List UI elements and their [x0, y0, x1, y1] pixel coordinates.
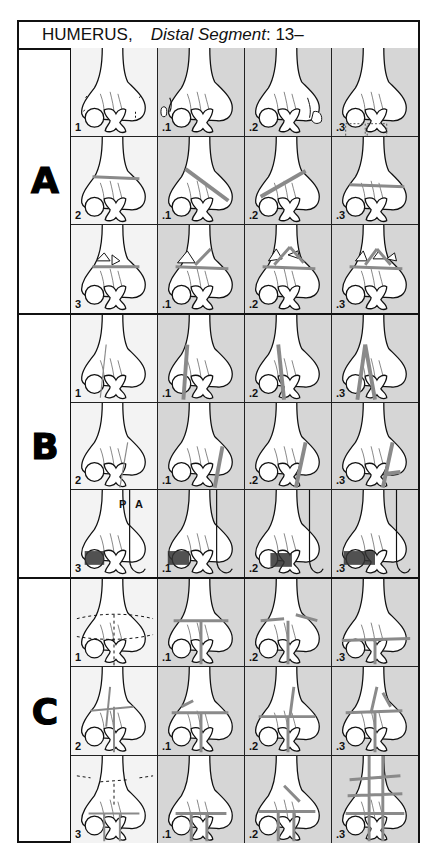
subgroup-label: .3 — [336, 474, 345, 486]
fracture-cell-c2-3: .3 — [331, 667, 418, 754]
subgroup-label: 1 — [75, 387, 81, 399]
fracture-cell-c1-2: .2 — [244, 579, 331, 666]
subgroup-label: .3 — [336, 209, 345, 221]
subgroup-row: 3.1.2.3 — [71, 224, 418, 313]
fracture-cell-c1: 1 — [71, 579, 157, 666]
subgroup-label: .2 — [249, 474, 258, 486]
fracture-cell-a1: 1 — [71, 48, 157, 136]
fracture-cell-c1-1: .1 — [157, 579, 244, 666]
subgroup-label: .1 — [162, 209, 171, 221]
segment-code: : 13– — [266, 25, 304, 45]
group-c: C1.1.2.32.1.2.33.1.2.3 — [19, 577, 418, 843]
group-rows: 1.1.2.32.1.2.33.1.2.3 — [71, 579, 418, 843]
subgroup-label: .3 — [336, 387, 345, 399]
subgroup-label: 1 — [75, 651, 81, 663]
fracture-cell-b3-1: .1 — [157, 490, 244, 577]
subgroup-label: .2 — [249, 651, 258, 663]
subgroup-label: .2 — [249, 562, 258, 574]
humerus-fracture-illustration — [71, 48, 157, 136]
anterior-view-label: A — [135, 498, 143, 510]
group-rows: 1.1.2.32.1.2.33.1.2.3 — [71, 48, 418, 313]
subgroup-label: .3 — [336, 298, 345, 310]
subgroup-label: 3 — [75, 828, 81, 840]
subgroup-label: 3 — [75, 298, 81, 310]
subgroup-row: 2.1.2.3 — [71, 666, 418, 754]
fracture-cell-a3-1: .1 — [157, 225, 244, 313]
fracture-cell-b1-3: .3 — [331, 315, 418, 402]
subgroup-label: 3 — [75, 562, 81, 574]
subgroup-label: .1 — [162, 387, 171, 399]
subgroup-label: 1 — [75, 121, 81, 133]
fracture-cell-b1: 1 — [71, 315, 157, 402]
group-rows: 1.1.2.32.1.2.33PA.1.2.3 — [71, 315, 418, 577]
subgroup-label: 2 — [75, 740, 81, 752]
humerus-fracture-illustration — [71, 403, 157, 490]
humerus-fracture-illustration — [71, 137, 157, 225]
fracture-cell-a1-1: .1 — [157, 48, 244, 136]
subgroup-row: 1.1.2.3 — [71, 315, 418, 402]
fracture-cell-a3: 3 — [71, 225, 157, 313]
fracture-cell-b2: 2 — [71, 403, 157, 490]
subgroup-label: .1 — [162, 298, 171, 310]
fracture-cell-a2: 2 — [71, 137, 157, 225]
fracture-cell-a1-3: .3 — [331, 48, 418, 136]
subgroup-label: .3 — [336, 651, 345, 663]
group-a: A1.1.2.32.1.2.33.1.2.3 — [19, 48, 418, 313]
fracture-cell-b1-1: .1 — [157, 315, 244, 402]
subgroup-label: 2 — [75, 474, 81, 486]
subgroup-label: .3 — [336, 740, 345, 752]
humerus-fracture-illustration — [71, 315, 157, 402]
subgroup-label: .1 — [162, 740, 171, 752]
subgroup-label: .1 — [162, 121, 171, 133]
humerus-fracture-illustration — [71, 490, 157, 577]
fracture-cell-c3-3: .3 — [331, 756, 418, 843]
fracture-cell-a2-1: .1 — [157, 137, 244, 225]
group-b: B1.1.2.32.1.2.33PA.1.2.3 — [19, 313, 418, 577]
subgroup-label: .3 — [336, 562, 345, 574]
fracture-cell-a3-2: .2 — [244, 225, 331, 313]
subgroup-row: 1.1.2.3 — [71, 579, 418, 666]
subgroup-label: .3 — [336, 828, 345, 840]
subgroup-label: .3 — [336, 121, 345, 133]
fracture-cell-a1-2: .2 — [244, 48, 331, 136]
group-letter: C — [19, 579, 71, 843]
fracture-cell-b3-3: .3 — [331, 490, 418, 577]
subgroup-row: 2.1.2.3 — [71, 136, 418, 225]
fracture-cell-c3-2: .2 — [244, 756, 331, 843]
fracture-cell-b3: 3PA — [71, 490, 157, 577]
humerus-fracture-illustration — [71, 579, 157, 666]
subgroup-label: 2 — [75, 209, 81, 221]
fracture-cell-b2-2: .2 — [244, 403, 331, 490]
fracture-cell-b2-3: .3 — [331, 403, 418, 490]
subgroup-row: 2.1.2.3 — [71, 402, 418, 490]
subgroup-label: .2 — [249, 121, 258, 133]
subgroup-row: 3PA.1.2.3 — [71, 489, 418, 577]
fracture-cell-c3-1: .1 — [157, 756, 244, 843]
fracture-cell-a3-3: .3 — [331, 225, 418, 313]
subgroup-label: .1 — [162, 474, 171, 486]
subgroup-row: 1.1.2.3 — [71, 48, 418, 136]
group-letter: B — [19, 315, 71, 577]
subgroup-label: .2 — [249, 209, 258, 221]
fracture-cell-b1-2: .2 — [244, 315, 331, 402]
chart-header: HUMERUS, Distal Segment : 13– — [19, 22, 418, 50]
fracture-cell-c2: 2 — [71, 667, 157, 754]
subgroup-label: .2 — [249, 387, 258, 399]
humerus-fracture-illustration — [71, 667, 157, 754]
posterior-view-label: P — [119, 498, 126, 510]
fracture-cell-c1-3: .3 — [331, 579, 418, 666]
fracture-cell-c3: 3 — [71, 756, 157, 843]
fracture-cell-b2-1: .1 — [157, 403, 244, 490]
subgroup-row: 3.1.2.3 — [71, 755, 418, 843]
subgroup-label: .2 — [249, 298, 258, 310]
subgroup-label: .1 — [162, 562, 171, 574]
humerus-fracture-illustration — [71, 225, 157, 313]
ao-classification-chart: HUMERUS, Distal Segment : 13– A1.1.2.32.… — [17, 20, 420, 843]
fracture-cell-a2-2: .2 — [244, 137, 331, 225]
segment-label: Distal Segment — [151, 25, 266, 45]
subgroup-label: .2 — [249, 828, 258, 840]
subgroup-label: .2 — [249, 740, 258, 752]
humerus-fracture-illustration — [71, 756, 157, 843]
fracture-cell-c2-1: .1 — [157, 667, 244, 754]
fracture-cell-c2-2: .2 — [244, 667, 331, 754]
